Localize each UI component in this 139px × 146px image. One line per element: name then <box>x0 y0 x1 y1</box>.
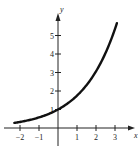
y-axis-arrow-icon <box>56 13 61 21</box>
y-axis-label: y <box>59 5 64 14</box>
x-tick-label: −2 <box>16 133 25 142</box>
x-tick-label: 3 <box>113 133 117 142</box>
x-axis-label: x <box>133 131 138 140</box>
tick-labels: −2−112312345 <box>16 32 117 143</box>
x-tick-label: 1 <box>75 133 79 142</box>
y-tick-label: 4 <box>50 50 54 59</box>
y-tick-label: 3 <box>50 69 54 78</box>
x-tick-label: −1 <box>35 133 44 142</box>
y-tick-label: 2 <box>50 87 54 96</box>
exponential-chart: −2−112312345 x y <box>0 0 139 146</box>
x-axis-arrow-icon <box>128 126 135 131</box>
y-tick-label: 5 <box>50 32 54 41</box>
x-tick-label: 2 <box>94 133 98 142</box>
ticks <box>20 36 115 132</box>
exponential-curve <box>14 23 117 123</box>
